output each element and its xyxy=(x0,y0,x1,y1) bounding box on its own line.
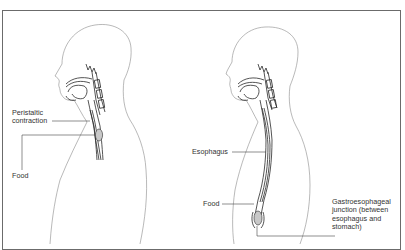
label-esophagus: Esophagus xyxy=(192,148,228,156)
left-figure-anatomy xyxy=(66,64,105,160)
label-food-right: Food xyxy=(203,200,219,208)
label-food-left: Food xyxy=(12,172,28,180)
label-line: contraction xyxy=(12,117,47,125)
label-gastroesophageal-junction: Gastroesophageal junction (between esoph… xyxy=(332,198,391,232)
right-figure-outline xyxy=(226,27,310,244)
label-peristaltic-contraction: Peristaltic contraction xyxy=(12,109,47,126)
right-leader-lines xyxy=(222,152,335,236)
food-bolus-left xyxy=(95,129,102,141)
label-line: stomach) xyxy=(332,223,391,231)
right-figure-anatomy xyxy=(238,64,277,228)
food-bolus-right xyxy=(254,211,262,225)
